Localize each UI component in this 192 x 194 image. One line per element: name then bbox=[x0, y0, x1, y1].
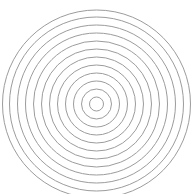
concentric-circles-diagram bbox=[0, 0, 192, 194]
ring-6 bbox=[50, 57, 144, 151]
ring-5 bbox=[58, 65, 136, 143]
ring-3 bbox=[74, 81, 120, 127]
ring-12 bbox=[3, 10, 191, 194]
ring-1 bbox=[90, 97, 104, 111]
ring-11 bbox=[10, 17, 184, 191]
ring-4 bbox=[66, 73, 128, 135]
ring-2 bbox=[82, 89, 112, 119]
ring-9 bbox=[26, 33, 168, 175]
ring-8 bbox=[34, 41, 160, 167]
